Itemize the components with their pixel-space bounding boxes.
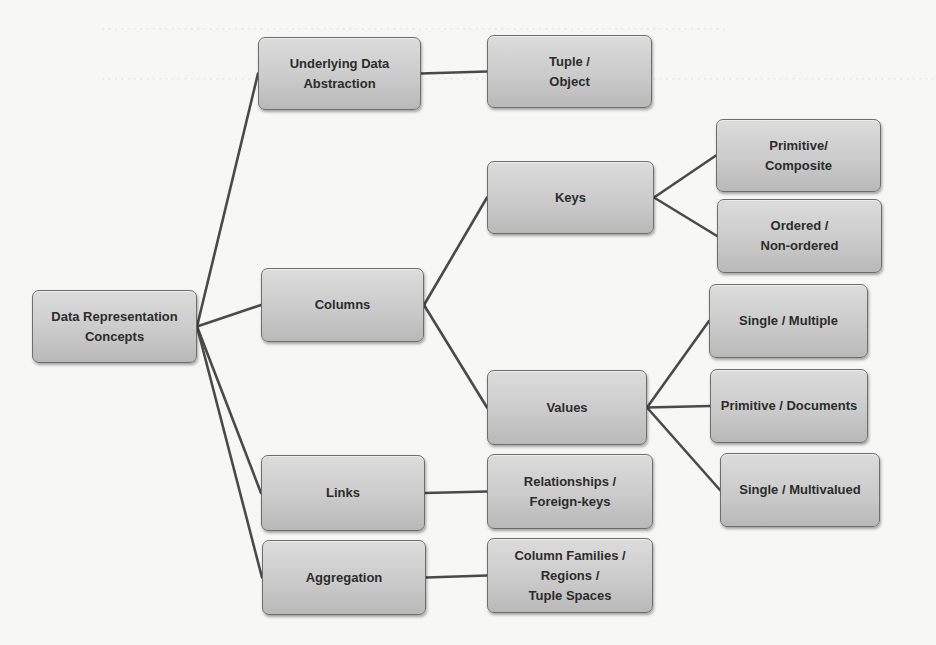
connector-root-links <box>197 327 261 494</box>
node-label: Relationships / Foreign-keys <box>524 472 616 512</box>
connector-root-columns <box>197 305 261 327</box>
node-primitive-composite: Primitive/ Composite <box>716 119 881 192</box>
connector-keys-ordered <box>654 198 717 237</box>
connector-columns-keys <box>424 198 487 306</box>
node-underlying-data-abstraction: Underlying Data Abstraction <box>258 37 421 110</box>
connector-values-singlemulti <box>647 321 709 408</box>
node-aggregation: Aggregation <box>262 540 426 615</box>
node-relationships-foreign-keys: Relationships / Foreign-keys <box>487 454 653 529</box>
node-label: Values <box>546 398 587 418</box>
node-data-representation-concepts: Data Representation Concepts <box>32 290 197 363</box>
node-tuple-object: Tuple / Object <box>487 35 652 108</box>
node-label: Data Representation Concepts <box>39 307 190 347</box>
connector-keys-primcomp <box>654 156 716 198</box>
node-links: Links <box>261 455 425 531</box>
node-label: Columns <box>315 295 371 315</box>
node-label: Tuple / Object <box>549 52 590 92</box>
node-label: Keys <box>555 188 586 208</box>
node-primitive-documents: Primitive / Documents <box>710 369 868 443</box>
node-column-families-regions-tuple-spaces: Column Families / Regions / Tuple Spaces <box>487 538 653 613</box>
node-label: Single / Multivalued <box>739 480 860 500</box>
node-label: Underlying Data Abstraction <box>290 54 390 94</box>
node-single-multivalued: Single / Multivalued <box>720 453 880 527</box>
connector-root-aggregation <box>197 327 262 578</box>
node-ordered-non-ordered: Ordered / Non-ordered <box>717 199 882 273</box>
node-label: Aggregation <box>306 568 383 588</box>
node-label: Single / Multiple <box>739 311 838 331</box>
node-label: Column Families / Regions / Tuple Spaces <box>514 546 625 606</box>
node-label: Ordered / Non-ordered <box>761 216 839 256</box>
connector-columns-values <box>424 305 487 408</box>
node-values: Values <box>487 370 647 445</box>
connector-underlying-tuple <box>421 72 487 74</box>
connector-values-primdocs <box>647 406 710 408</box>
node-label: Primitive/ Composite <box>765 136 832 176</box>
node-label: Links <box>326 483 360 503</box>
node-label: Primitive / Documents <box>721 396 858 416</box>
node-columns: Columns <box>261 268 424 342</box>
connector-root-underlying <box>197 74 258 327</box>
node-single-multiple: Single / Multiple <box>709 284 868 358</box>
connector-aggregation-colfamilies <box>426 576 487 578</box>
connector-links-relationships <box>425 492 487 494</box>
node-keys: Keys <box>487 161 654 234</box>
